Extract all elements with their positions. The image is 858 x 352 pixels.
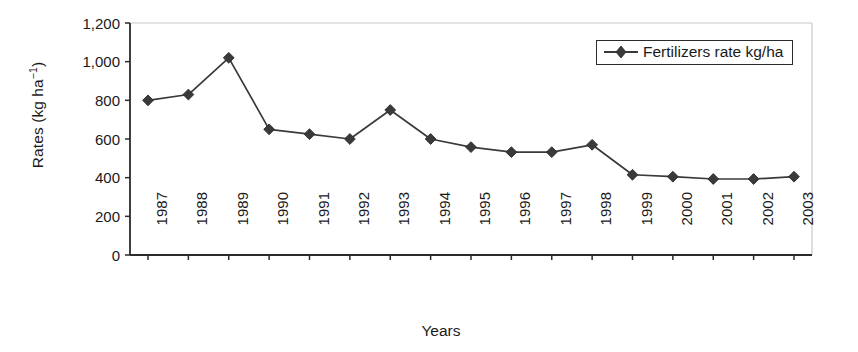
data-point-marker [667,171,678,182]
y-axis-title-base: Rates (kg ha [29,79,46,168]
series-line [148,58,794,179]
x-axis-tick-label: 1991 [316,192,331,262]
y-axis-tick-labels: 02004006008001,0001,200 [54,0,120,352]
y-axis-title-exponent: −1 [27,67,39,79]
data-point-marker [344,134,355,145]
x-axis-tick-label: 2002 [760,192,775,262]
y-axis-tick-label: 800 [54,93,120,108]
x-axis-tick-label: 2001 [719,192,734,262]
data-point-marker [143,95,154,106]
data-point-marker [748,174,759,185]
data-point-marker [385,105,396,116]
data-point-marker [466,142,477,153]
y-axis-tick-label: 1,200 [54,16,120,31]
x-axis-title: Years [0,322,858,340]
fertilizer-rate-line-chart: Rates (kg ha−1) 02004006008001,0001,200 … [0,0,858,352]
chart-legend[interactable]: Fertilizers rate kg/ha [596,40,793,65]
x-axis-tick-label: 1999 [639,192,654,262]
data-point-marker [425,134,436,145]
y-axis-title: Rates (kg ha−1) [29,15,47,215]
x-axis-tick-label: 1997 [558,192,573,262]
data-point-marker [546,147,557,158]
x-axis-tick-label: 2003 [800,192,815,262]
x-axis-tick-label: 1998 [598,192,613,262]
x-axis-tick-label: 1989 [235,192,250,262]
data-point-marker [506,147,517,158]
y-axis-tick-label: 400 [54,170,120,185]
data-point-marker [304,129,315,140]
data-point-marker [264,124,275,135]
y-axis-tick-label: 200 [54,209,120,224]
x-axis-tick-label: 2000 [679,192,694,262]
x-axis-tick-label: 1994 [437,192,452,262]
x-axis-tick-label: 1993 [396,192,411,262]
x-axis-tick-label: 1996 [517,192,532,262]
y-axis-title-tail: ) [29,62,46,67]
data-point-marker [708,174,719,185]
x-axis-tick-label: 1988 [194,192,209,262]
x-axis-title-text: Years [421,322,460,340]
legend-series-marker-icon [604,45,638,59]
data-point-marker [789,171,800,182]
x-axis-tick-label: 1987 [154,192,169,262]
x-axis-tick-label: 1995 [477,192,492,262]
legend-series-label: Fertilizers rate kg/ha [643,44,783,60]
y-axis-tick-label: 600 [54,132,120,147]
x-axis-tick-label: 1990 [275,192,290,262]
y-axis-tick-label: 0 [54,248,120,263]
x-axis-tick-label: 1992 [356,192,371,262]
y-axis-tick-label: 1,000 [54,54,120,69]
